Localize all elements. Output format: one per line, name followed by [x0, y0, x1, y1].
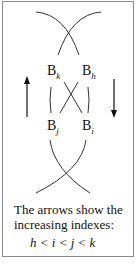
- middle-strand-right: [88, 87, 89, 113]
- top-arc-right: [58, 12, 101, 55]
- up-arrow-icon: [24, 76, 30, 117]
- description: The arrows show the increasing indexes:: [14, 202, 134, 232]
- description-line-1: The arrows show the: [14, 202, 134, 217]
- middle-strand-left: [50, 87, 51, 113]
- middle-cross-b: [60, 82, 78, 113]
- description-line-2: increasing indexes:: [14, 217, 134, 232]
- node-b-h: Bh: [82, 63, 96, 81]
- index-ordering-formula: h < i < j < k: [30, 235, 95, 251]
- node-b-i: Bi: [82, 118, 94, 136]
- top-arc-left: [36, 12, 79, 55]
- node-b-k: Bk: [47, 63, 60, 81]
- down-arrow-icon: [111, 79, 117, 118]
- middle-cross-a: [64, 82, 82, 113]
- node-b-j: Bj: [47, 118, 59, 136]
